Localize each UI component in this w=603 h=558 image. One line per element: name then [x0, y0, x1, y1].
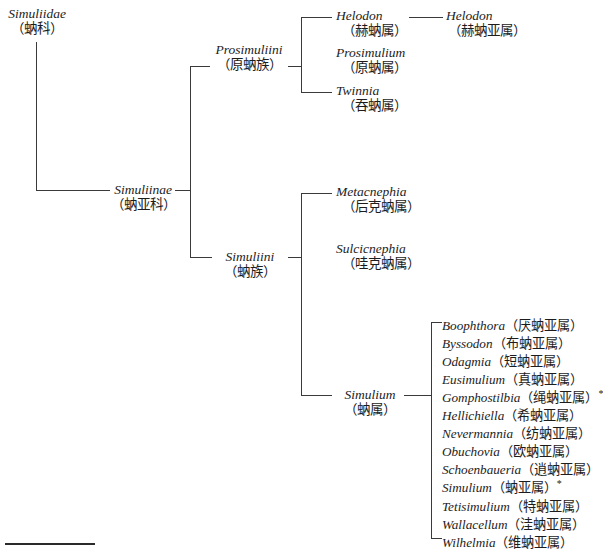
line-tribe-bracket	[190, 66, 191, 258]
taxon-helodon-subgenus: Helodon （赫蚋亚属）	[446, 8, 526, 38]
subgenus-latin: Odagmia	[442, 354, 491, 369]
subgenus-chinese: （布蚋亚属）	[493, 336, 571, 351]
line-to-prosimuliini	[190, 66, 210, 67]
subgenus-latin: Boophthora	[442, 318, 505, 333]
subgenus-latin: Nevermannia	[442, 426, 513, 441]
taxon-simuliinae-chinese: （蚋亚科）	[110, 197, 176, 212]
subgenus-row: Gomphostilbia（绳蚋亚属）*	[442, 387, 603, 406]
taxon-twinnia: Twinnia （吞蚋属）	[336, 83, 407, 113]
subgenus-row: Simulium（蚋亚属）*	[442, 477, 562, 496]
subgenus-row: Wilhelmia（维蚋亚属）	[442, 532, 573, 551]
line-helodon-to-subgenus	[409, 17, 443, 18]
taxon-simuliini-latin: Simuliini	[212, 249, 288, 264]
line-simulium-stem	[404, 395, 432, 396]
line-prosimuliini-stem	[288, 66, 302, 67]
line-to-simulium	[301, 395, 332, 396]
line-subfamily-stem	[175, 190, 191, 191]
subgenus-chinese: （特蚋亚属）	[510, 499, 588, 514]
taxon-helodon-genus-chinese: （赫蚋属）	[336, 23, 407, 38]
subgenus-latin: Tetisimulium	[442, 499, 510, 514]
taxon-twinnia-chinese: （吞蚋属）	[336, 98, 407, 113]
subgenus-chinese: （希蚋亚属）	[504, 408, 582, 423]
line-prosimuliini-bracket	[301, 17, 302, 93]
taxon-prosimulium-latin: Prosimulium	[336, 45, 407, 60]
line-to-simuliini	[190, 257, 212, 258]
taxon-helodon-subgenus-chinese: （赫蚋亚属）	[446, 23, 526, 38]
taxon-metacnephia-latin: Metacnephia	[336, 184, 420, 199]
taxon-simulium-genus-chinese: （蚋属）	[336, 402, 404, 417]
subgenus-chinese: （维蚋亚属）	[495, 535, 573, 550]
subgenus-latin: Wilhelmia	[442, 535, 495, 550]
line-to-first-subgenus	[431, 322, 442, 323]
taxon-simuliinae-latin: Simuliinae	[110, 182, 176, 197]
line-simuliini-bracket	[301, 193, 302, 396]
taxon-sulcicnephia: Sulcicnephia （哇克蚋属）	[336, 241, 420, 271]
subgenus-latin: Obuchovia	[442, 444, 500, 459]
subgenus-row: Obuchovia（欧蚋亚属）	[442, 441, 578, 460]
subgenus-latin: Wallacellum	[442, 517, 507, 532]
subgenus-row: Schoenbaueria（逍蚋亚属）	[442, 459, 599, 478]
taxon-simulium-genus-latin: Simulium	[336, 387, 404, 402]
taxon-prosimuliini-chinese: （原蚋族）	[210, 57, 288, 72]
taxon-simuliidae-chinese: （蚋科）	[4, 21, 70, 36]
subgenus-chinese: （真蚋亚属）	[505, 372, 583, 387]
taxon-helodon-genus: Helodon （赫蚋属）	[336, 8, 407, 38]
subgenus-row: Eusimulium（真蚋亚属）	[442, 369, 583, 388]
taxon-twinnia-latin: Twinnia	[336, 83, 407, 98]
taxon-simuliini: Simuliini （蚋族）	[212, 249, 288, 279]
subgenus-chinese: （厌蚋亚属）	[505, 318, 583, 333]
taxon-sulcicnephia-latin: Sulcicnephia	[336, 241, 420, 256]
taxon-prosimulium-chinese: （原蚋属）	[336, 60, 407, 75]
cladogram-canvas: Simuliidae （蚋科） Simuliinae （蚋亚科） Prosimu…	[0, 0, 603, 558]
subgenus-row: Hellichiella（希蚋亚属）	[442, 405, 582, 424]
subgenus-latin: Gomphostilbia	[442, 390, 520, 405]
line-subgenus-bracket	[431, 322, 432, 538]
line-to-last-subgenus	[431, 538, 442, 539]
taxon-simuliidae-latin: Simuliidae	[4, 6, 70, 21]
subgenus-chinese: （欧蚋亚属）	[500, 444, 578, 459]
line-family-to-subfamily	[36, 190, 110, 191]
subgenus-row: Wallacellum（洼蚋亚属）	[442, 514, 585, 533]
taxon-sulcicnephia-chinese: （哇克蚋属）	[336, 256, 420, 271]
subgenus-latin: Schoenbaueria	[442, 462, 521, 477]
subgenus-chinese: （蚋亚属）	[492, 480, 557, 495]
subgenus-row: Nevermannia（纺蚋亚属）	[442, 423, 591, 442]
taxon-prosimuliini: Prosimuliini （原蚋族）	[210, 42, 288, 72]
taxon-metacnephia: Metacnephia （后克蚋属）	[336, 184, 420, 214]
taxon-prosimuliini-latin: Prosimuliini	[210, 42, 288, 57]
subgenus-row: Byssodon（布蚋亚属）	[442, 333, 571, 352]
line-to-twinnia	[301, 92, 332, 93]
taxon-simuliinae: Simuliinae （蚋亚科）	[110, 182, 176, 212]
line-family-stem	[36, 42, 37, 191]
subgenus-row: Odagmia（短蚋亚属）	[442, 351, 569, 370]
subgenus-row: Tetisimulium（特蚋亚属）	[442, 496, 588, 515]
taxon-simuliini-chinese: （蚋族）	[212, 264, 288, 279]
subgenus-chinese: （纺蚋亚属）	[513, 426, 591, 441]
taxon-simulium-genus: Simulium （蚋属）	[336, 387, 404, 417]
subgenus-latin: Byssodon	[442, 336, 493, 351]
footnote-rule	[5, 543, 95, 545]
subgenus-chinese: （洼蚋亚属）	[507, 517, 585, 532]
line-to-metacnephia	[301, 193, 332, 194]
subgenus-chinese: （绳蚋亚属）	[520, 390, 598, 405]
subgenus-row: Boophthora（厌蚋亚属）	[442, 315, 583, 334]
subgenus-latin: Hellichiella	[442, 408, 504, 423]
taxon-helodon-subgenus-latin: Helodon	[446, 8, 526, 23]
line-simuliini-stem	[288, 257, 302, 258]
subgenus-chinese: （短蚋亚属）	[491, 354, 569, 369]
line-to-helodon	[301, 17, 332, 18]
subgenus-latin: Simulium	[442, 480, 492, 495]
subgenus-chinese: （逍蚋亚属）	[521, 462, 599, 477]
subgenus-latin: Eusimulium	[442, 372, 505, 387]
subgenus-asterisk: *	[557, 478, 562, 489]
subgenus-asterisk: *	[598, 388, 603, 399]
taxon-simuliidae: Simuliidae （蚋科）	[4, 6, 70, 36]
taxon-metacnephia-chinese: （后克蚋属）	[336, 199, 420, 214]
taxon-prosimulium: Prosimulium （原蚋属）	[336, 45, 407, 75]
taxon-helodon-genus-latin: Helodon	[336, 8, 407, 23]
